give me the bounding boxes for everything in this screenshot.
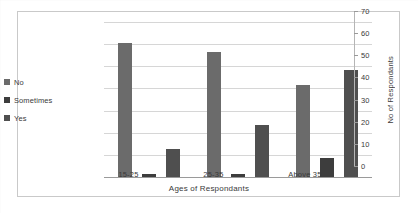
y-tick-mark [354,166,358,167]
x-category-label: 25-35 [203,170,223,179]
legend-label: No [14,78,24,87]
bar-no-25-35 [207,52,221,178]
y-tick-label: 40 [361,73,370,82]
y-tick-label: 30 [361,95,370,104]
chart-legend: NoSometimesYes [4,74,80,128]
bar-group [296,23,358,178]
y-axis-line [354,11,355,166]
y-tick-label: 10 [361,139,370,148]
y-tick-mark [354,11,358,12]
x-axis-categories: 15-2525-35Above 35 [86,170,354,179]
y-tick-mark [354,144,358,145]
y-tick-mark [354,55,358,56]
legend-swatch-icon [4,97,10,103]
legend-item-yes[interactable]: Yes [4,110,80,126]
y-tick-mark [354,100,358,101]
legend-label: Yes [14,114,27,123]
legend-swatch-icon [4,115,10,121]
bar-group [207,23,269,178]
bar-no-15-25 [118,43,132,178]
y-tick-label: 0 [361,162,365,171]
y-tick-label: 20 [361,117,370,126]
plot-area [104,23,372,178]
y-tick-mark [354,77,358,78]
legend-label: Sometimes [14,96,52,105]
y-tick-label: 70 [361,7,370,16]
x-axis-title: Ages of Respondants [0,184,418,193]
legend-swatch-icon [4,79,10,85]
y-axis-title: No of Respondants [386,56,395,124]
y-tick-mark [354,33,358,34]
bar-series-group [104,23,372,178]
y-tick-label: 50 [361,51,370,60]
legend-item-no[interactable]: No [4,74,80,90]
bar-group [118,23,180,178]
y-axis: 010203040506070 [354,11,388,166]
legend-item-sometimes[interactable]: Sometimes [4,92,80,108]
bar-no-above-35 [296,85,310,178]
x-category-label: 15-25 [118,170,138,179]
x-category-label: Above 35 [288,170,321,179]
y-tick-label: 60 [361,29,370,38]
y-tick-mark [354,122,358,123]
